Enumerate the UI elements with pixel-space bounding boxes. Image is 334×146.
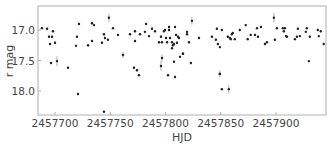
data-point bbox=[317, 29, 319, 31]
data-point bbox=[49, 43, 51, 45]
data-point bbox=[161, 41, 163, 43]
x-tick-label: 2457850 bbox=[197, 117, 244, 129]
data-point bbox=[117, 34, 119, 36]
data-point bbox=[171, 47, 173, 49]
data-point bbox=[173, 43, 175, 45]
data-point bbox=[138, 74, 140, 76]
data-point bbox=[257, 35, 259, 37]
data-point bbox=[169, 37, 171, 39]
data-point bbox=[283, 30, 285, 32]
data-point bbox=[91, 22, 93, 24]
data-point bbox=[276, 27, 278, 29]
y-axis-label: r mag bbox=[3, 45, 16, 77]
x-tick-label: 2457900 bbox=[253, 117, 300, 129]
data-point bbox=[247, 38, 249, 40]
data-point bbox=[50, 62, 52, 64]
data-point bbox=[211, 35, 213, 37]
data-point bbox=[166, 41, 168, 43]
data-point bbox=[188, 41, 190, 43]
data-point bbox=[230, 38, 232, 40]
data-point bbox=[176, 42, 178, 44]
data-point bbox=[232, 32, 234, 34]
data-point bbox=[234, 38, 236, 40]
x-tick-label: 2457800 bbox=[142, 117, 189, 129]
data-point bbox=[299, 35, 301, 37]
x-tick-label: 2457750 bbox=[87, 117, 134, 129]
data-point bbox=[129, 33, 131, 35]
data-point bbox=[190, 62, 192, 64]
data-point bbox=[219, 73, 221, 75]
data-point bbox=[239, 29, 241, 31]
data-point bbox=[245, 24, 247, 26]
data-point bbox=[168, 29, 170, 31]
data-point bbox=[256, 27, 258, 29]
data-point bbox=[318, 35, 320, 37]
data-point bbox=[112, 27, 114, 29]
data-point bbox=[297, 28, 299, 30]
data-point bbox=[165, 37, 167, 39]
data-point bbox=[139, 33, 141, 35]
data-point bbox=[101, 42, 103, 44]
data-point bbox=[54, 42, 56, 44]
data-point bbox=[151, 28, 153, 30]
data-point bbox=[48, 35, 50, 37]
data-point bbox=[221, 88, 223, 90]
data-point bbox=[260, 26, 262, 28]
data-point bbox=[266, 41, 268, 43]
data-point bbox=[93, 24, 95, 26]
data-point bbox=[254, 34, 256, 36]
data-point bbox=[305, 31, 307, 33]
x-axis-label: HJD bbox=[172, 131, 192, 144]
data-point bbox=[186, 33, 188, 35]
data-point bbox=[178, 37, 180, 39]
data-point bbox=[174, 26, 176, 28]
data-point bbox=[264, 43, 266, 45]
y-tick-label: 18.0 bbox=[12, 85, 35, 97]
data-point bbox=[46, 28, 48, 30]
data-point bbox=[134, 40, 136, 42]
data-point bbox=[171, 41, 173, 43]
plot-frame bbox=[38, 6, 326, 115]
data-point bbox=[136, 69, 138, 71]
data-point bbox=[219, 46, 221, 48]
data-point bbox=[308, 60, 310, 62]
data-point bbox=[52, 30, 54, 32]
data-point bbox=[179, 56, 181, 58]
data-point bbox=[87, 44, 89, 46]
y-tick-label: 17.0 bbox=[12, 24, 35, 36]
data-point bbox=[306, 27, 308, 29]
data-point bbox=[320, 30, 322, 32]
data-point bbox=[41, 27, 43, 29]
data-point bbox=[323, 43, 325, 45]
data-point bbox=[216, 28, 218, 30]
data-point bbox=[217, 43, 219, 45]
data-point bbox=[107, 39, 109, 41]
light-curve-chart: 24577002457750245780024578502457900 17.0… bbox=[0, 0, 334, 146]
data-point bbox=[104, 37, 106, 39]
data-point bbox=[186, 31, 188, 33]
data-point bbox=[148, 35, 150, 37]
data-point bbox=[215, 39, 217, 41]
data-point bbox=[294, 38, 296, 40]
data-point bbox=[227, 35, 229, 37]
data-point bbox=[249, 34, 251, 36]
x-tick-label: 2457700 bbox=[32, 117, 79, 129]
data-point bbox=[164, 29, 166, 31]
data-point bbox=[91, 40, 93, 42]
data-point bbox=[78, 23, 80, 25]
data-point bbox=[174, 76, 176, 78]
data-point bbox=[133, 67, 135, 69]
data-point bbox=[284, 27, 286, 29]
data-point bbox=[51, 35, 53, 37]
data-point bbox=[76, 35, 78, 37]
data-point bbox=[75, 45, 77, 47]
data-point bbox=[309, 35, 311, 37]
data-point bbox=[296, 35, 298, 37]
data-point bbox=[134, 30, 136, 32]
data-point bbox=[67, 67, 69, 69]
data-point bbox=[160, 35, 162, 37]
data-point bbox=[167, 74, 169, 76]
data-point bbox=[77, 93, 79, 95]
data-point bbox=[145, 23, 147, 25]
data-point bbox=[221, 29, 223, 31]
